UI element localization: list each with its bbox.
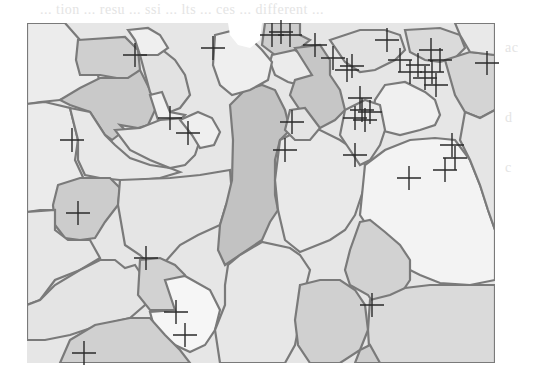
- segmentation-map: [0, 0, 547, 384]
- region: [368, 285, 495, 363]
- region: [295, 280, 368, 363]
- segmentation-figure: ... tion ... resu ... ssi ... lts ... ce…: [0, 0, 547, 384]
- region: [76, 37, 140, 80]
